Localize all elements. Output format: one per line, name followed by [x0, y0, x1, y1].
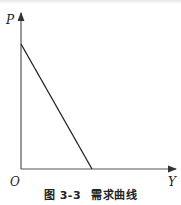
y-axis-label: P: [5, 13, 15, 27]
demand-curve-chart: P Y O: [0, 0, 181, 205]
demand-curve: [21, 44, 92, 169]
figure-number: 图 3-3: [44, 189, 81, 202]
figure-caption: 图 3-3需求曲线: [0, 186, 181, 202]
figure-title: 需求曲线: [91, 189, 137, 202]
